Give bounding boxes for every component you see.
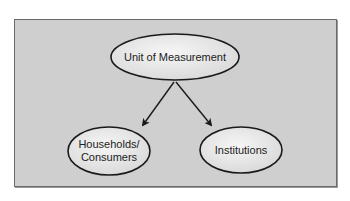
- node-root-label: Unit of Measurement: [111, 34, 239, 80]
- diagram-canvas: [0, 0, 350, 201]
- node-households-text-2: Consumers: [81, 151, 137, 164]
- node-households-text-1: Households/: [78, 138, 139, 151]
- edge-root-to-institutions: [176, 82, 211, 125]
- node-institutions-label: Institutions: [200, 127, 282, 173]
- edge-root-to-households: [143, 82, 174, 125]
- node-institutions-text: Institutions: [215, 144, 268, 157]
- node-households-label: Households/ Consumers: [68, 127, 150, 175]
- node-root-text: Unit of Measurement: [124, 51, 226, 64]
